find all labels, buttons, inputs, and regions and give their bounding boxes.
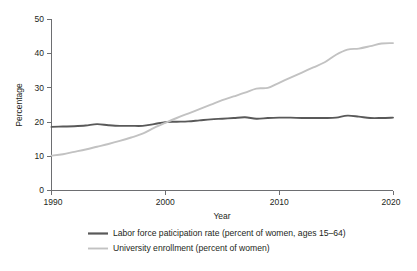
x-axis-title: Year <box>213 211 230 221</box>
legend-label-1: University enrollment (percent of women) <box>113 243 270 253</box>
series-group <box>52 43 394 156</box>
series-line-labor-force <box>52 116 394 127</box>
y-axis-tick-labels: 0 10 20 30 40 50 <box>35 14 45 195</box>
y-tick-label-20: 20 <box>35 117 45 127</box>
chart-legend: Labor force paticipation rate (percent o… <box>88 228 346 253</box>
x-tick-label-2020: 2020 <box>382 197 401 207</box>
y-tick-label-0: 0 <box>39 185 44 195</box>
series-line-university-enrollment <box>52 43 394 156</box>
x-tick-label-1990: 1990 <box>44 197 63 207</box>
chart-figure: 0 10 20 30 40 50 1990 2000 2010 2020 Yea… <box>0 0 417 271</box>
x-axis-ticks <box>52 191 394 196</box>
legend-label-0: Labor force paticipation rate (percent o… <box>113 228 346 238</box>
line-chart: 0 10 20 30 40 50 1990 2000 2010 2020 Yea… <box>0 0 417 271</box>
y-tick-label-30: 30 <box>35 83 45 93</box>
y-tick-label-50: 50 <box>35 14 45 24</box>
x-axis-tick-labels: 1990 2000 2010 2020 <box>44 197 401 207</box>
y-axis-title: Percentage <box>14 83 24 127</box>
y-tick-label-10: 10 <box>35 151 45 161</box>
x-tick-label-2010: 2010 <box>270 197 289 207</box>
y-axis-ticks <box>47 20 52 191</box>
y-tick-label-40: 40 <box>35 48 45 58</box>
x-tick-label-2000: 2000 <box>156 197 175 207</box>
